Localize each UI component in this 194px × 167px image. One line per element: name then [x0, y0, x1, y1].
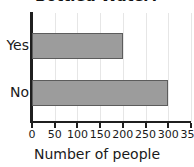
gridline	[168, 13, 169, 122]
category-label: No	[0, 84, 29, 100]
x-tick-label: 350	[171, 128, 194, 141]
bar-chart: Bottled Water? Number of people 05010015…	[0, 0, 194, 167]
x-axis-title: Number of people	[0, 146, 194, 162]
category-label: Yes	[0, 37, 29, 53]
chart-title: Bottled Water?	[0, 0, 194, 5]
bar	[32, 80, 168, 106]
bar	[32, 33, 123, 59]
y-axis-line	[30, 12, 33, 123]
gridline	[191, 13, 192, 122]
